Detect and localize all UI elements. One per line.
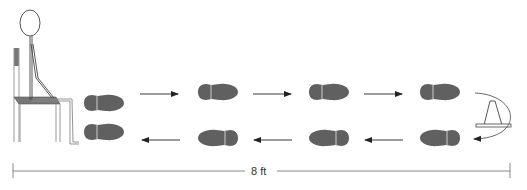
person-head xyxy=(20,10,40,36)
footprint xyxy=(420,130,460,146)
footprints-outbound xyxy=(84,84,460,111)
distance-label: 8 ft xyxy=(248,165,269,177)
seated-person xyxy=(20,10,79,144)
footprint xyxy=(84,124,124,140)
chair-back-pad xyxy=(14,48,19,66)
chair-seat xyxy=(14,97,60,104)
footprint xyxy=(309,84,349,100)
footprint xyxy=(198,84,238,100)
footprint xyxy=(198,130,238,146)
footprint xyxy=(309,130,349,146)
walk-test-diagram xyxy=(0,0,527,190)
chair xyxy=(14,48,60,142)
footprint xyxy=(420,84,460,100)
footprint xyxy=(84,95,124,111)
footprints-return xyxy=(84,124,460,146)
